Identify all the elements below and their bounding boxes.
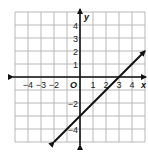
y-axis-label: y (83, 12, 90, 22)
x-tick-label: 4 (129, 80, 134, 90)
plotted-line (54, 51, 145, 142)
x-axis-label: x (140, 80, 147, 90)
y-tick-label: 1 (73, 60, 78, 70)
y-tick-label: −2 (68, 99, 78, 109)
origin-label: O (70, 80, 77, 90)
x-tick-label: −3 (36, 80, 46, 90)
line-y-equals-x-minus-3 (54, 51, 145, 142)
x-tick-label: 3 (116, 80, 121, 90)
y-tick-label: 4 (73, 21, 78, 31)
x-tick-label: −2 (49, 80, 59, 90)
y-tick-label: 3 (73, 34, 78, 44)
x-tick-label: −4 (23, 80, 33, 90)
coordinate-graph: −4−3−212344321−2−4 x y O (0, 0, 148, 154)
y-tick-label: 2 (73, 47, 78, 57)
x-tick-label: 1 (90, 80, 95, 90)
axes (13, 9, 146, 145)
